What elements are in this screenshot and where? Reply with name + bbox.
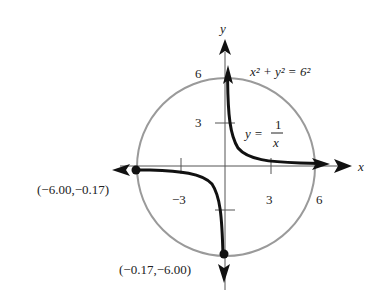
y-axis-label: y bbox=[218, 21, 226, 36]
hyperbola-eq-den: x bbox=[272, 135, 279, 150]
point-bottom bbox=[220, 250, 229, 259]
chart-canvas: y x 6 3 −3 3 6 x² + y² = 6² y = 1 x (−6.… bbox=[0, 0, 382, 302]
hyperbola-eq-num: 1 bbox=[275, 117, 282, 132]
circle-equation: x² + y² = 6² bbox=[249, 64, 311, 79]
point-left bbox=[132, 166, 141, 175]
x-axis-label: x bbox=[357, 159, 364, 174]
x-tick-label-3: 3 bbox=[266, 192, 273, 207]
x-tick-label--3: −3 bbox=[172, 192, 186, 207]
circle-curve bbox=[137, 78, 315, 256]
x-tick-label-6: 6 bbox=[316, 192, 323, 207]
hyperbola-arrow-down-icon bbox=[218, 264, 230, 283]
hyperbola-eq-y: y = bbox=[243, 126, 263, 141]
y-tick-label-6: 6 bbox=[195, 66, 202, 81]
point-bottom-label: (−0.17,−6.00) bbox=[119, 262, 191, 277]
point-left-label: (−6.00,−0.17) bbox=[37, 182, 109, 197]
y-tick-label-3: 3 bbox=[195, 115, 202, 130]
